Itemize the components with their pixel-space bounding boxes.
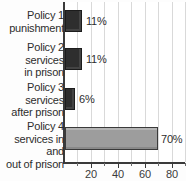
- x-tick-label-20: 20: [85, 168, 97, 180]
- value-label-policy-4: 70%: [161, 133, 182, 145]
- x-tick-label-80: 80: [166, 168, 178, 180]
- value-label-policy-3: 6%: [79, 93, 95, 105]
- gridline-70: [158, 2, 159, 162]
- category-label-policy-3: Policy 3 services after prison: [11, 81, 64, 119]
- bar-policy-1: [65, 10, 82, 32]
- x-tick-minor-70: [158, 163, 159, 166]
- value-label-policy-2: 11%: [86, 53, 107, 65]
- bar-policy-3: [65, 88, 75, 110]
- x-tick-minor-90: [185, 163, 186, 166]
- bar-policy-4: [65, 127, 158, 150]
- bar-policy-2: [65, 48, 82, 70]
- value-label-policy-1: 11%: [86, 15, 107, 27]
- x-tick-minor-10: [77, 163, 78, 166]
- x-tick-label-40: 40: [112, 168, 124, 180]
- x-axis: [63, 162, 185, 164]
- x-tick-minor-50: [131, 163, 132, 166]
- x-tick-label-60: 60: [139, 168, 151, 180]
- category-label-policy-2: Policy 2 services in prison: [24, 41, 64, 79]
- gridline-90: [185, 2, 186, 162]
- category-label-policy-4: Policy 4 services in and out of prison: [0, 120, 64, 170]
- x-tick-minor-30: [104, 163, 105, 166]
- category-label-policy-1: Policy 1 punishment: [9, 9, 64, 34]
- bar-chart: Policy 1 punishment Policy 2 services in…: [0, 0, 186, 181]
